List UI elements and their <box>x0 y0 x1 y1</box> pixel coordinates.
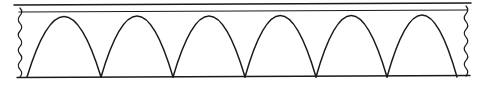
arcade-diagram <box>0 0 485 85</box>
arch-curve-5 <box>316 16 387 78</box>
arch-curve-3 <box>173 16 245 77</box>
left-break <box>18 8 22 77</box>
deck-top-edge-line <box>14 3 471 5</box>
arch-curve-4 <box>245 16 316 78</box>
arch-group <box>27 15 457 77</box>
arch-curve-6 <box>387 15 457 77</box>
arch-curve-1 <box>27 17 101 78</box>
deck-band <box>14 3 471 12</box>
figure-root <box>0 0 485 85</box>
right-break <box>464 6 468 76</box>
arch-curve-2 <box>101 16 173 77</box>
base-line <box>17 76 470 78</box>
break-mark-group <box>18 6 468 77</box>
deck-bottom-edge-line <box>19 10 467 12</box>
